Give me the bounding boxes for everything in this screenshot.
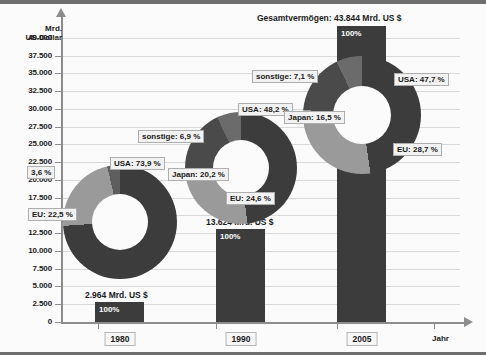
y-axis-tick — [55, 233, 62, 234]
y-axis-title-line1: Mrd. — [18, 24, 62, 33]
y-axis-tick-label: 0 — [0, 317, 52, 326]
bar-2005-total-label: Gesamtvermögen: 43.844 Mrd. US $ — [257, 13, 402, 23]
y-axis-tick — [55, 162, 62, 163]
y-axis-tick — [55, 180, 62, 181]
donut-1980-label-sonstige: 3,6 % — [27, 166, 55, 179]
donut-1980-hole — [92, 194, 148, 250]
scan-border-top — [0, 0, 486, 4]
donut-1990-label-eu: EU: 24,6 % — [226, 192, 275, 205]
bar-1990[interactable]: 100% — [216, 229, 265, 322]
gridline — [62, 56, 460, 57]
donut-2005-label-usa: USA: 47,7 % — [394, 73, 449, 86]
y-axis-tick — [55, 251, 62, 252]
y-axis-tick-label: 40.000 — [0, 33, 52, 42]
y-axis-tick-label: 7.500 — [0, 264, 52, 273]
y-axis-tick — [55, 198, 62, 199]
x-axis-label-1980: 1980 — [105, 332, 136, 346]
y-axis-tick — [55, 269, 62, 270]
donut-2005-label-eu: EU: 28,7 % — [393, 143, 442, 156]
y-axis-tick-label: 35.000 — [0, 68, 52, 77]
gridline — [62, 38, 460, 39]
y-axis-arrow-icon — [56, 8, 66, 17]
y-axis-line — [61, 16, 63, 324]
x-axis-arrow-icon — [464, 317, 473, 327]
y-axis-tick — [55, 73, 62, 74]
y-axis-tick-label: 12.500 — [0, 228, 52, 237]
x-axis-tick — [434, 322, 435, 329]
y-axis-tick-label: 27.500 — [0, 122, 52, 131]
donut-2005-label-japan: Japan: 16,5 % — [284, 111, 345, 124]
y-axis-tick — [55, 286, 62, 287]
y-axis-tick-label: 10.000 — [0, 246, 52, 255]
x-axis-tick — [216, 322, 217, 329]
y-axis-tick — [55, 304, 62, 305]
donut-1990-label-japan: Japan: 20,2 % — [168, 168, 229, 181]
y-axis-tick-label: 32.500 — [0, 86, 52, 95]
y-axis-tick-label: 25.000 — [0, 139, 52, 148]
x-axis-label-2005: 2005 — [347, 332, 378, 346]
x-axis-tick — [98, 322, 99, 329]
y-axis-tick-label: 2.500 — [0, 299, 52, 308]
y-axis-tick-label: 30.000 — [0, 104, 52, 113]
y-axis-tick — [55, 127, 62, 128]
bar-1980-percent: 100% — [99, 305, 119, 314]
donut-2005-label-sonstige: sonstige: 7,1 % — [252, 70, 318, 83]
x-axis-label-1990: 1990 — [226, 332, 257, 346]
x-axis-line — [61, 322, 466, 324]
y-axis-tick-label: 17.500 — [0, 193, 52, 202]
y-axis-tick-label: 37.500 — [0, 51, 52, 60]
chart-canvas: Mrd. US-Dollar 02.5005.0007.50010.00012.… — [0, 0, 486, 355]
x-axis-title: Jahr — [432, 334, 449, 343]
y-axis-tick-label: 22.500 — [0, 157, 52, 166]
bar-1980-total-label: 2.964 Mrd. US $ — [85, 290, 148, 300]
donut-1990-label-sonstige: sonstige: 6,9 % — [138, 130, 204, 143]
y-axis-tick — [55, 322, 62, 323]
y-axis-tick-label: 5.000 — [0, 281, 52, 290]
bar-1990-percent: 100% — [220, 232, 240, 241]
y-axis-tick — [55, 91, 62, 92]
y-axis-tick — [55, 144, 62, 145]
donut-1980-label-usa: USA: 73,9 % — [110, 157, 165, 170]
x-axis-tick — [337, 322, 338, 329]
donut-1980-label-eu: EU: 22,5 % — [28, 208, 77, 221]
bar-2005-percent: 100% — [341, 29, 361, 38]
y-axis-tick — [55, 109, 62, 110]
y-axis-tick — [55, 38, 62, 39]
y-axis-tick — [55, 56, 62, 57]
bar-1980[interactable]: 100% — [95, 302, 144, 322]
